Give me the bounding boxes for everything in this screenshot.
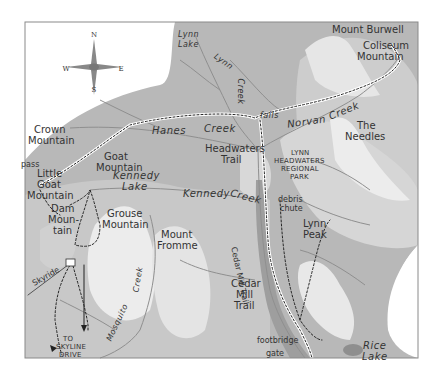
label-skyline-1: TO (63, 335, 73, 343)
label-needles-2: Needles (345, 131, 385, 142)
label-lynn-creek-2: Creek (236, 79, 245, 105)
label-falls: falls (260, 111, 279, 120)
label-cedar-mill-3: Trail (234, 300, 254, 311)
label-headwaters-trail-2: Trail (221, 154, 241, 165)
label-lynn-lake-1: Lynn (178, 30, 199, 39)
label-needles-1: The (357, 120, 376, 131)
label-gate: gate (266, 349, 284, 358)
label-park-2: HEADWATERS (274, 157, 325, 165)
label-mount-burwell: Mount Burwell (332, 24, 404, 35)
label-crown-2: Mountain (28, 135, 75, 146)
label-coliseum-2: Mountain (357, 51, 404, 62)
label-coliseum-1: Coliseum (363, 40, 409, 51)
label-kennedy-lake-1: Kennedy (113, 170, 160, 181)
label-skyline-3: DRIVE (59, 351, 82, 359)
label-little-goat-2: Goat (37, 179, 61, 190)
compass-w: W (62, 65, 70, 73)
label-skyline-2: SKYLINE (56, 343, 86, 351)
label-rice-lake-2: Lake (362, 351, 388, 362)
label-kennedy-lake-2: Lake (122, 181, 148, 192)
label-footbridge: footbridge (257, 336, 298, 345)
skyride-station-icon (66, 259, 75, 266)
label-lynn-peak-2: Peak (303, 229, 327, 240)
label-cedar-mill-2: Mill (236, 289, 253, 300)
label-rice-lake-1: Rice (363, 340, 386, 351)
label-lynn-peak-1: Lynn (303, 218, 326, 229)
label-little-goat-1: Little (37, 168, 62, 179)
label-grouse-1: Grouse (107, 208, 142, 219)
label-grouse-2: Mountain (102, 219, 149, 230)
label-fromme-2: Fromme (157, 240, 198, 251)
label-goat-1: Goat (104, 151, 128, 162)
compass-e: E (118, 65, 123, 73)
label-debris-2: chute (280, 204, 303, 213)
label-kennedy-creek-1: Kennedy (183, 188, 230, 199)
label-park-4: PARK (290, 173, 309, 181)
label-dam-2: Moun- (48, 214, 79, 225)
label-dam-3: tain (53, 225, 72, 236)
label-cedar-mill-1: Cedar (231, 278, 261, 289)
label-crown-1: Crown (34, 124, 66, 135)
compass-n: N (91, 31, 97, 39)
label-little-goat-3: Mountain (27, 190, 74, 201)
label-park-3: REGIONAL (281, 165, 319, 173)
label-debris-1: debris (278, 195, 303, 204)
label-hanes-creek-2: Creek (204, 123, 236, 134)
compass-s: S (92, 86, 97, 94)
label-fromme-1: Mount (161, 229, 192, 240)
label-lynn-lake-2: Lake (178, 40, 199, 49)
label-dam-1: Dam (51, 203, 75, 214)
label-park-1: LYNN (291, 149, 310, 157)
label-hanes-creek-1: Hanes (152, 125, 186, 136)
label-headwaters-trail-1: Headwaters (205, 143, 265, 154)
